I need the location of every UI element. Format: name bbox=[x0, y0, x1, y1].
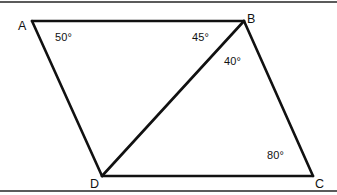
vertex-label-D: D bbox=[90, 178, 99, 191]
angle-label-at-A: 50° bbox=[55, 32, 72, 43]
vertex-label-C: C bbox=[315, 178, 324, 191]
vertex-label-B: B bbox=[247, 13, 256, 26]
diagram-canvas bbox=[0, 0, 337, 195]
segment-DB-diagonal bbox=[102, 21, 244, 176]
angle-label-DBC: 40° bbox=[224, 56, 241, 67]
vertex-label-A: A bbox=[18, 20, 27, 33]
angle-label-at-C: 80° bbox=[267, 150, 284, 161]
segment-DA bbox=[32, 21, 102, 176]
angle-label-ABD: 45° bbox=[192, 32, 209, 43]
geometry-figure: A B C D 50° 45° 40° 80° bbox=[0, 0, 337, 195]
